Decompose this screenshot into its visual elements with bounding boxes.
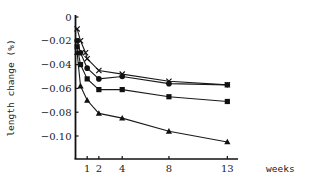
square-marker-icon [96,87,101,92]
series-triangle [74,50,230,145]
y-tick-label: −0.02 [41,35,72,46]
x-tick-label: 2 [96,163,102,174]
y-axis-title: length change (%) [5,39,16,136]
circle-marker-icon [84,65,90,71]
square-marker-icon [75,44,80,49]
circle-marker-icon [225,82,231,88]
x-tick-label: 8 [166,163,172,174]
y-tick-label: −0.04 [41,59,72,70]
data-series [74,26,230,144]
x-tick-label: 1 [84,163,90,174]
y-tick-label: 0 [65,12,71,23]
circle-marker-icon [74,38,80,44]
series-circle [74,38,230,88]
y-tick-label: −0.10 [41,131,72,142]
circle-marker-icon [96,76,102,82]
square-marker-icon [166,94,171,99]
square-marker-icon [225,99,230,104]
series-line [77,53,227,142]
square-marker-icon [120,87,125,92]
triangle-marker-icon [84,97,90,103]
x-tick-label: 4 [119,163,125,174]
x-tick-label: 13 [221,163,234,174]
y-axis-title-group: length change (%) [5,39,16,136]
series-line [77,47,227,102]
square-marker-icon [85,76,90,81]
length-change-chart: length change (%) weeks 0−0.02−0.04−0.06… [0,0,312,183]
y-tick-label: −0.08 [41,107,72,118]
y-tick-label: −0.06 [41,83,72,94]
x-axis-title: weeks [266,163,295,174]
series-square [75,44,230,104]
circle-marker-icon [166,81,172,87]
triangle-marker-icon [77,83,83,89]
circle-marker-icon [119,74,125,80]
y-axis-ticks: 0−0.02−0.04−0.06−0.08−0.10 [41,12,79,142]
